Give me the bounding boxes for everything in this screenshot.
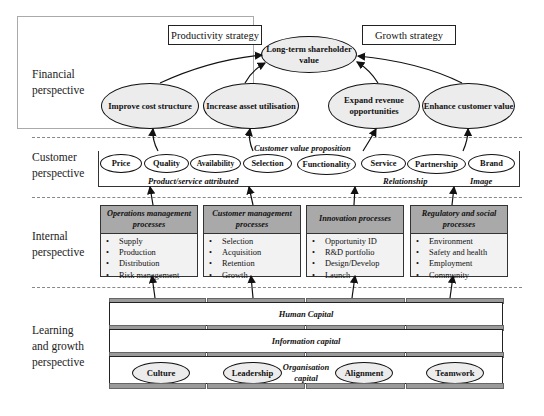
connector-arrows <box>0 0 544 416</box>
